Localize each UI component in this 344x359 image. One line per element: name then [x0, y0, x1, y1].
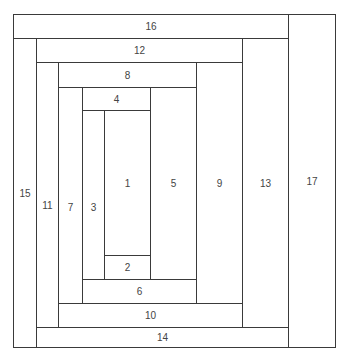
block-10: 10: [58, 303, 243, 328]
block-label: 10: [145, 310, 156, 321]
block-label: 5: [171, 178, 177, 189]
block-label: 13: [260, 178, 271, 189]
block-label: 15: [19, 188, 30, 199]
block-label: 12: [134, 45, 145, 56]
block-label: 3: [91, 202, 97, 213]
block-label: 1: [125, 178, 131, 189]
block-label: 7: [68, 202, 74, 213]
block-3: 3: [82, 110, 105, 304]
block-2: 2: [104, 255, 151, 280]
block-label: 4: [114, 94, 120, 105]
block-4: 4: [82, 87, 151, 111]
block-1: 1: [104, 110, 151, 256]
block-14: 14: [36, 327, 289, 348]
block-label: 11: [42, 200, 52, 211]
block-17: 17: [288, 14, 336, 348]
log-cabin-diagram: 1234567891011121314151617: [0, 0, 344, 359]
block-7: 7: [58, 87, 83, 328]
block-12: 12: [36, 38, 243, 63]
block-13: 13: [242, 38, 289, 328]
block-8: 8: [58, 62, 197, 88]
block-15: 15: [13, 38, 37, 348]
block-label: 2: [125, 262, 131, 273]
block-label: 16: [145, 21, 156, 32]
block-16: 16: [13, 14, 289, 39]
block-11: 11: [36, 62, 59, 348]
block-label: 14: [157, 332, 168, 343]
block-label: 8: [125, 70, 131, 81]
block-9: 9: [196, 62, 243, 304]
block-6: 6: [82, 279, 197, 304]
block-label: 6: [137, 286, 143, 297]
block-5: 5: [150, 87, 197, 280]
block-label: 17: [306, 176, 317, 187]
block-label: 9: [217, 178, 223, 189]
